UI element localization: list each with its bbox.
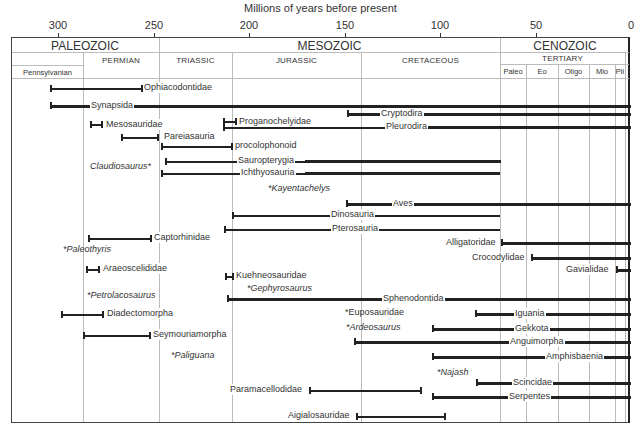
tertiary-divider — [500, 64, 629, 65]
tick-label-0: 0 — [628, 19, 634, 31]
label-kuehneosauridae: Kuehneosauridae — [235, 270, 308, 281]
range-cap — [346, 200, 348, 207]
range-cap — [61, 311, 63, 318]
label-dinosauria: Dinosauria — [330, 209, 375, 220]
tick-label-50: 50 — [530, 19, 542, 31]
epoch-eo: Eo — [526, 67, 558, 76]
range-cap — [102, 311, 104, 318]
range-cap — [98, 266, 100, 273]
range-bar-aves — [347, 203, 631, 206]
range-cap — [231, 143, 233, 150]
range-cap — [347, 110, 349, 117]
tick-label-200: 200 — [240, 19, 258, 31]
fossil-euposauridae: *Euposauridae — [345, 307, 404, 318]
range-bar-crocodylidae — [531, 257, 631, 260]
fossil-paleothyris: *Paleothyris — [63, 244, 111, 255]
boundary-permian-triassic — [159, 38, 160, 422]
fossil-petrolacosaurus: *Petrolacosaurus — [87, 290, 156, 301]
x-axis-title: Millions of years before present — [0, 2, 641, 14]
range-cap — [121, 134, 123, 141]
range-cap — [161, 143, 163, 150]
range-cap — [309, 387, 311, 394]
range-cap — [157, 134, 159, 141]
range-bar-paramacellodidae — [309, 390, 421, 392]
epoch-mio: Mio — [589, 67, 615, 76]
range-bar-ophiacodontidae — [50, 88, 142, 90]
label-amphisbaenia: Amphisbaenia — [545, 351, 604, 362]
range-cap — [50, 102, 52, 109]
tick-label-100: 100 — [431, 19, 449, 31]
fossil-paliguana: *Paliguana — [171, 350, 215, 361]
pennsylvanian-divider — [12, 65, 83, 66]
epoch-paleo: Paleo — [500, 67, 526, 76]
range-cap — [90, 121, 92, 128]
range-cap — [223, 124, 225, 131]
label-gekkota: Gekkota — [514, 323, 550, 334]
range-cap — [475, 310, 477, 317]
range-cap — [232, 212, 234, 219]
label-sphenodontida: Sphenodontida — [382, 293, 445, 304]
tick-label-250: 250 — [145, 19, 163, 31]
period-pennsylvanian: Pennsylvanian — [12, 68, 83, 77]
fossil-claudiosaurus: Claudiosaurus* — [90, 161, 151, 172]
range-cap — [88, 235, 90, 242]
label-captorhinidae: Captorhinidae — [153, 232, 211, 243]
label-alligatoridae: Alligatoridae — [445, 237, 497, 248]
label-synapsida: Synapsida — [90, 100, 134, 111]
range-cap — [161, 170, 163, 177]
label-seymouriamorpha: Seymouriamorpha — [152, 329, 228, 340]
range-bar-diadectomorpha — [61, 314, 103, 316]
range-cap — [235, 118, 237, 125]
fossil-gephyrosaurus: *Gephyrosaurus — [247, 283, 312, 294]
boundary-cretaceous-tertiary — [500, 38, 501, 422]
label-diadectomorpha: Diadectomorpha — [106, 308, 174, 319]
range-cap — [432, 393, 434, 400]
label-aigialosauridae: Aigialosauridae — [287, 410, 351, 421]
range-bar-pareiasauria — [121, 137, 158, 139]
range-bar-ichthyosauria — [305, 172, 500, 175]
period-tertiary: TERTIARY — [500, 54, 625, 63]
label-ophiacodontidae: Ophiacodontidae — [143, 82, 213, 93]
range-cap — [83, 332, 85, 339]
range-cap — [50, 85, 52, 92]
range-bar-pleurodira-early — [223, 127, 403, 129]
range-cap — [227, 295, 229, 302]
tick-label-300: 300 — [49, 19, 67, 31]
label-pterosauria: Pterosauria — [331, 223, 379, 234]
range-cap — [232, 273, 234, 280]
range-cap — [432, 325, 434, 332]
label-aves: Aves — [392, 198, 414, 209]
range-bar-synapsida — [50, 105, 631, 108]
label-iguania: Iguania — [514, 308, 546, 319]
label-araeoscelididae: Araeoscelididae — [102, 263, 168, 274]
range-cap — [356, 413, 358, 420]
range-bar-pleurodira — [403, 126, 631, 129]
range-bar-alligatoridae — [501, 242, 631, 245]
range-cap — [149, 332, 151, 339]
range-cap — [225, 273, 227, 280]
era-cenozoic: CENOZOIC — [500, 39, 630, 53]
tick-label-150: 150 — [336, 19, 354, 31]
label-ichthyosauria: Ichthyosauria — [240, 167, 296, 178]
label-paramacellodidae: Paramacellodidae — [229, 384, 303, 395]
range-bar-sauropterygia — [305, 160, 501, 163]
range-cap — [165, 158, 167, 165]
range-cap — [354, 338, 356, 345]
epoch-pli: Pli — [615, 67, 625, 76]
header-bottom-divider — [12, 78, 629, 79]
range-cap — [616, 266, 618, 273]
label-pleurodira: Pleurodira — [385, 121, 428, 132]
label-anguimorpha: Anguimorpha — [509, 336, 565, 347]
range-cap — [476, 379, 478, 386]
label-cryptodira: Cryptodira — [380, 108, 424, 119]
label-mesosauridae: Mesosauridae — [105, 119, 164, 130]
period-triassic: TRIASSIC — [159, 56, 232, 65]
label-crocodylidae: Crocodylidae — [471, 252, 526, 263]
range-bar-gavialidae — [616, 269, 631, 272]
range-cap — [150, 235, 152, 242]
label-pareiasauria: Pareiasauria — [163, 131, 216, 142]
range-cap — [101, 121, 103, 128]
range-cap — [432, 353, 434, 360]
fossil-najash: *Najash — [437, 367, 469, 378]
label-proganochelyidae: Proganochelyidae — [238, 116, 312, 127]
